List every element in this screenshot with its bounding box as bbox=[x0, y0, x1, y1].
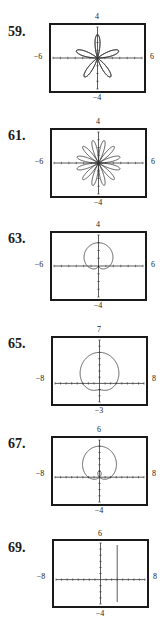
polar-plot bbox=[49, 23, 146, 93]
x-min-label: −6 bbox=[29, 260, 49, 269]
y-max-label: 7 bbox=[89, 325, 109, 334]
x-min-label: −8 bbox=[30, 469, 50, 478]
polar-plot bbox=[50, 231, 147, 301]
panel-59: 59. 4 −4 −6 6 bbox=[0, 0, 165, 103]
panel-61: 61. 4 −4 −6 6 bbox=[0, 103, 165, 206]
y-max-label: 4 bbox=[88, 117, 108, 126]
y-min-label: −4 bbox=[89, 506, 109, 515]
x-min-label: −6 bbox=[28, 52, 48, 61]
x-min-label: −8 bbox=[30, 374, 50, 383]
problem-number: 59. bbox=[8, 24, 26, 40]
y-max-label: 4 bbox=[88, 220, 108, 229]
problem-number: 67. bbox=[8, 436, 26, 452]
polar-plot bbox=[50, 128, 147, 198]
problem-number: 61. bbox=[8, 128, 26, 144]
polar-plot bbox=[51, 336, 148, 406]
y-min-label: −4 bbox=[90, 609, 110, 618]
panel-67: 67. 6 −4 −8 8 bbox=[0, 412, 165, 515]
panel-63: 63. 4 −4 −6 6 bbox=[0, 206, 165, 309]
problem-number: 65. bbox=[8, 336, 26, 352]
x-min-label: −6 bbox=[29, 157, 49, 166]
x-min-label: −8 bbox=[31, 572, 51, 581]
y-max-label: 6 bbox=[90, 529, 110, 538]
problem-number: 69. bbox=[8, 540, 26, 556]
problem-number: 63. bbox=[8, 231, 26, 247]
panel-65: 65. 7 −3 −8 8 bbox=[0, 309, 165, 412]
panel-69: 69. 6 −4 −8 8 bbox=[0, 515, 165, 618]
polar-plot bbox=[52, 539, 149, 608]
y-max-label: 4 bbox=[87, 12, 107, 21]
polar-plot bbox=[51, 436, 148, 506]
y-min-label: −4 bbox=[87, 93, 107, 102]
y-max-label: 6 bbox=[89, 425, 109, 434]
